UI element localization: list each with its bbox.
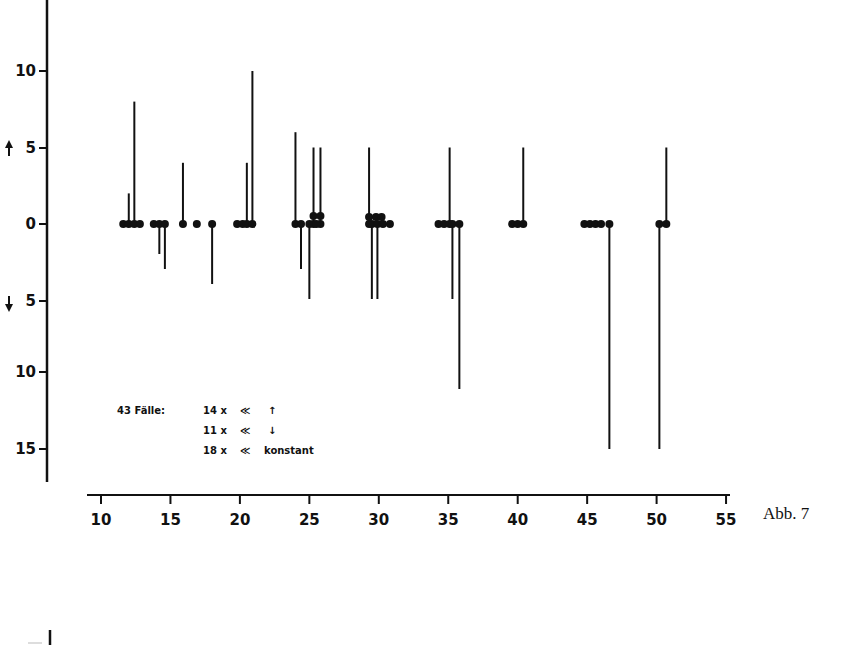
data-dot — [597, 220, 605, 228]
data-dot — [136, 220, 144, 228]
data-dot — [379, 220, 387, 228]
down-arrow-icon — [5, 296, 13, 312]
x-tick-label: 20 — [229, 511, 250, 529]
legend-meaning: konstant — [264, 445, 314, 456]
y-tick-label: 10 — [15, 62, 36, 80]
chart: 105051015 10152025303540455055 43 Fälle:… — [0, 0, 851, 645]
data-dot — [455, 220, 463, 228]
data-dot — [161, 220, 169, 228]
x-tick-label: 25 — [299, 511, 320, 529]
y-tick-label: 10 — [15, 363, 36, 381]
legend-title: 43 Fälle: — [117, 405, 165, 416]
legend-count: 18 x — [203, 445, 227, 456]
y-ticks: 105051015 — [15, 62, 47, 458]
legend-meaning: ↑ — [268, 405, 276, 416]
legend-count: 14 x — [203, 405, 227, 416]
data-dot — [312, 220, 320, 228]
legend-symbol: ≪ — [240, 405, 250, 416]
up-arrow-icon — [5, 140, 13, 156]
data-dot — [297, 220, 305, 228]
data-dot — [662, 220, 670, 228]
x-tick-label: 35 — [438, 511, 459, 529]
y-tick-label: 5 — [26, 292, 36, 310]
x-tick-label: 40 — [507, 511, 528, 529]
y-tick-label: 5 — [26, 139, 36, 157]
legend-symbol: ≪ — [240, 425, 250, 436]
data-dot — [655, 220, 663, 228]
data-dot — [248, 220, 256, 228]
legend-meaning: ↓ — [268, 425, 276, 436]
legend-symbol: ≪ — [240, 445, 250, 456]
data-dot — [378, 213, 386, 221]
data-dot — [179, 220, 187, 228]
x-tick-label: 30 — [368, 511, 389, 529]
legend: 43 Fälle: 14 x≪↑11 x≪↓18 x≪konstant — [117, 405, 314, 456]
data-dot — [386, 220, 394, 228]
x-tick-label: 50 — [646, 511, 667, 529]
data-dot — [310, 212, 318, 220]
x-tick-label: 10 — [91, 511, 112, 529]
data-dot — [519, 220, 527, 228]
data-dot — [365, 213, 373, 221]
y-tick-label: 0 — [26, 215, 36, 233]
data-dot — [208, 220, 216, 228]
x-ticks: 10152025303540455055 — [91, 495, 737, 529]
y-tick-label: 15 — [15, 440, 36, 458]
data-dot — [193, 220, 201, 228]
legend-count: 11 x — [203, 425, 227, 436]
data-dot — [605, 220, 613, 228]
data-dot — [448, 220, 456, 228]
data-dots — [119, 212, 670, 228]
x-tick-label: 15 — [160, 511, 181, 529]
figure-caption: Abb. 7 — [763, 504, 809, 524]
x-tick-label: 45 — [577, 511, 598, 529]
x-tick-label: 55 — [716, 511, 737, 529]
data-dot — [316, 212, 324, 220]
data-stems — [129, 71, 667, 449]
